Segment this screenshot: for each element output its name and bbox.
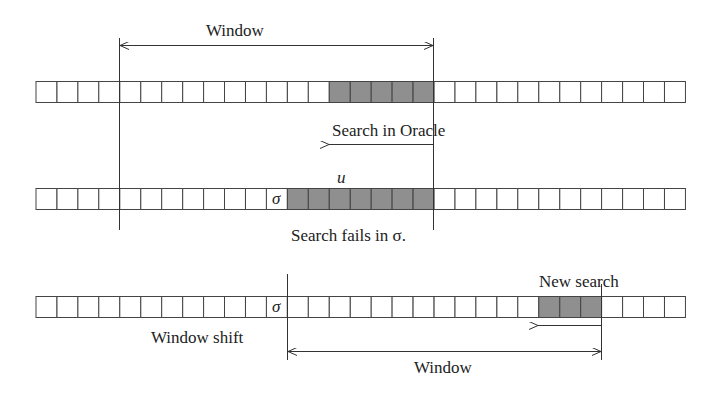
cell (518, 189, 539, 210)
cell (162, 297, 183, 318)
cell (497, 82, 518, 103)
cell (518, 297, 539, 318)
cell (644, 297, 665, 318)
cell (120, 189, 141, 210)
cell (78, 297, 99, 318)
cell (623, 189, 644, 210)
cell-strip-row-2: σ (36, 189, 685, 210)
cell (183, 297, 204, 318)
cell-strip-row-1 (36, 82, 685, 103)
cell (162, 82, 183, 103)
cell (329, 297, 350, 318)
cell (455, 297, 476, 318)
cell (665, 189, 686, 210)
window-top-label: Window (206, 21, 265, 40)
cell (476, 297, 497, 318)
cell (204, 82, 225, 103)
cell (434, 82, 455, 103)
cell (141, 297, 162, 318)
window-shift-label: Window shift (151, 328, 244, 347)
shaded-cell (413, 189, 434, 210)
sigma-symbol: σ (272, 297, 281, 316)
cell (57, 82, 78, 103)
cell (581, 189, 602, 210)
cell (665, 82, 686, 103)
cell (539, 189, 560, 210)
cell (78, 82, 99, 103)
cell (162, 189, 183, 210)
window-shift-diagram: σ σ Window Search in Oracle u Search fai… (0, 0, 719, 394)
cell (287, 82, 308, 103)
cell (225, 82, 246, 103)
cell (476, 189, 497, 210)
cell (434, 189, 455, 210)
shaded-cell (371, 82, 392, 103)
cell (120, 82, 141, 103)
cell (602, 82, 623, 103)
u-symbol: u (337, 168, 346, 187)
cell (308, 297, 329, 318)
cell (183, 189, 204, 210)
cell (623, 82, 644, 103)
shaded-cell (392, 189, 413, 210)
cell (183, 82, 204, 103)
cell (350, 297, 371, 318)
cell (497, 297, 518, 318)
shaded-cell (560, 297, 581, 318)
cell (602, 189, 623, 210)
cell (246, 297, 267, 318)
search-fails-label: Search fails in σ. (291, 226, 406, 245)
shaded-cell (581, 297, 602, 318)
shaded-cell (371, 189, 392, 210)
cell (120, 297, 141, 318)
cell (644, 82, 665, 103)
cell-strip-row-3: σ (36, 297, 685, 318)
shaded-cell (539, 297, 560, 318)
cell (204, 189, 225, 210)
cell (246, 82, 267, 103)
cell (371, 297, 392, 318)
new-search-label: New search (539, 272, 619, 291)
cell (57, 297, 78, 318)
cell (455, 189, 476, 210)
cell (518, 82, 539, 103)
search-in-oracle-label: Search in Oracle (332, 121, 445, 140)
cell (455, 82, 476, 103)
cell (392, 297, 413, 318)
cell (413, 297, 434, 318)
shaded-cell (329, 82, 350, 103)
cell (476, 82, 497, 103)
shaded-cell (350, 189, 371, 210)
cell (623, 297, 644, 318)
cell (36, 297, 57, 318)
cell (57, 189, 78, 210)
cell (266, 82, 287, 103)
cell (246, 189, 267, 210)
cell (602, 297, 623, 318)
shaded-cell (287, 189, 308, 210)
cell (141, 189, 162, 210)
cell (99, 297, 120, 318)
window-bottom-label: Window (414, 358, 473, 377)
cell (539, 82, 560, 103)
cell (99, 82, 120, 103)
cell (560, 189, 581, 210)
cell (225, 297, 246, 318)
cell (581, 82, 602, 103)
cell (560, 82, 581, 103)
cell (225, 189, 246, 210)
cell (644, 189, 665, 210)
cell (434, 297, 455, 318)
cell (308, 82, 329, 103)
cell (78, 189, 99, 210)
shaded-cell (329, 189, 350, 210)
cell (204, 297, 225, 318)
sigma-symbol: σ (272, 189, 281, 208)
shaded-cell (413, 82, 434, 103)
cell (141, 82, 162, 103)
shaded-cell (392, 82, 413, 103)
cell (287, 297, 308, 318)
shaded-cell (350, 82, 371, 103)
cell (36, 82, 57, 103)
cell (497, 189, 518, 210)
